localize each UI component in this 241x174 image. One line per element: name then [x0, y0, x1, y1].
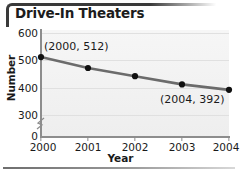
data-point: [38, 54, 44, 60]
annotation-last-point: (2004, 392): [160, 93, 225, 106]
bottom-rule: [3, 167, 235, 169]
chart-figure: Drive-In Theaters Number 600 500 400 300…: [0, 0, 241, 174]
data-point: [132, 73, 138, 79]
data-series: [0, 0, 241, 174]
data-point: [85, 65, 91, 71]
data-point: [226, 87, 232, 93]
data-point: [179, 81, 185, 87]
x-axis-title: Year: [0, 152, 241, 164]
annotation-first-point: (2000, 512): [44, 40, 109, 53]
